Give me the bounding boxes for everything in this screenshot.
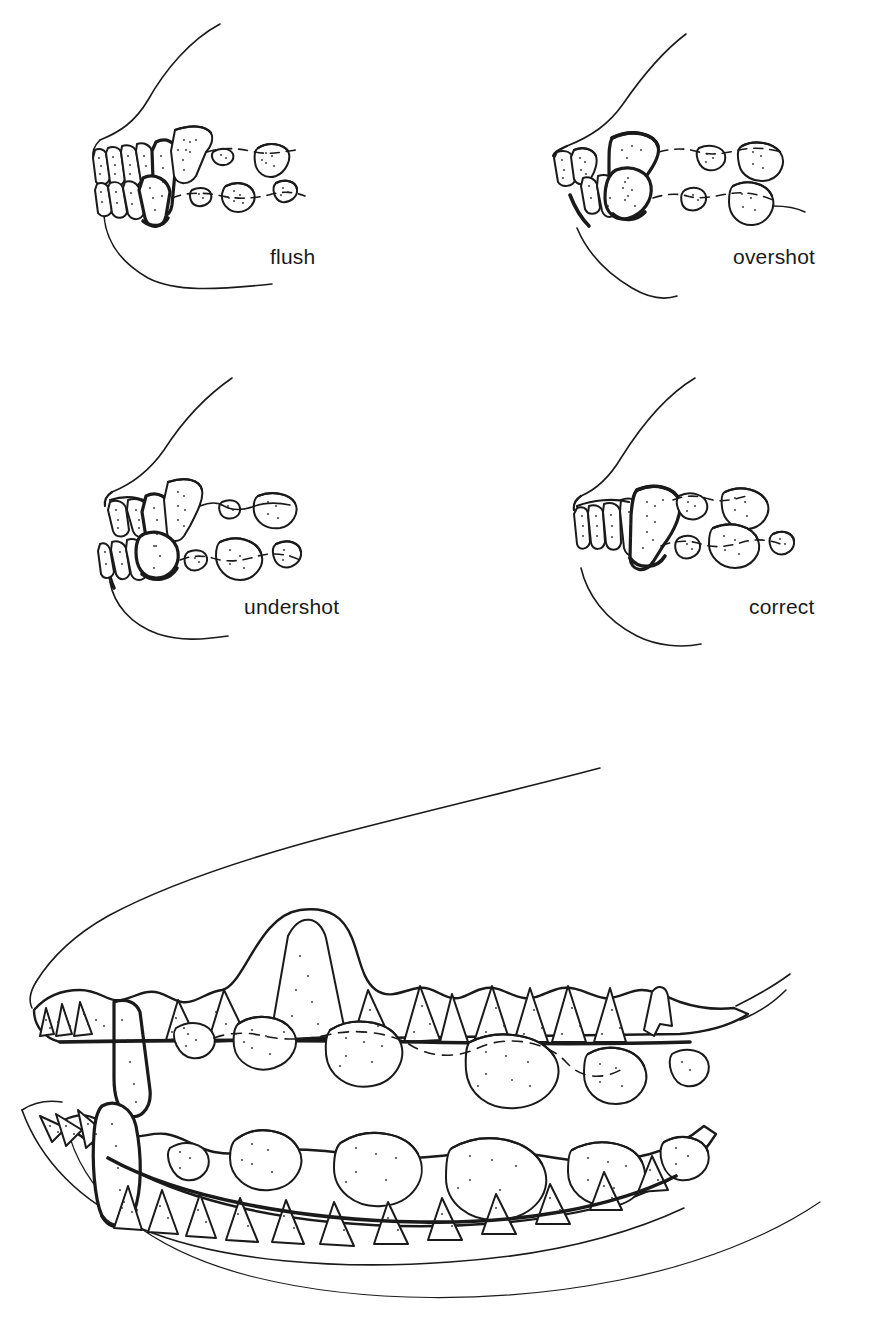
panel-flush: [0, 0, 437, 330]
panel-label-overshot: overshot: [733, 245, 815, 269]
panel-label-correct: correct: [749, 595, 815, 619]
illustration-page: flush: [0, 0, 874, 1320]
panel-label-flush: flush: [270, 245, 315, 269]
panel-undershot: [0, 330, 437, 660]
flush-drawing: [0, 0, 437, 330]
main-dentition-illustration: [0, 690, 874, 1320]
undershot-drawing: [0, 330, 437, 660]
overshot-drawing: [437, 0, 874, 330]
full-dentition-drawing: [0, 690, 874, 1320]
panel-label-undershot: undershot: [244, 595, 339, 619]
panel-overshot: [437, 0, 874, 330]
